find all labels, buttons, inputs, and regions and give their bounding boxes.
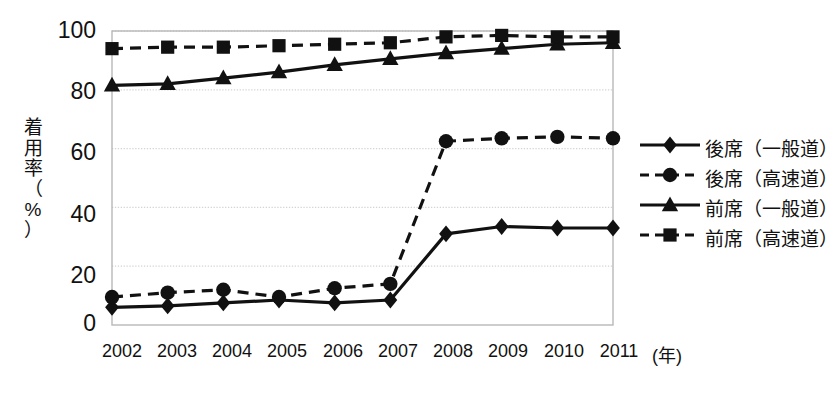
legend-label-3: 前席（高速道） [705, 224, 838, 251]
chart-container: 着用率（%） 100 80 60 40 20 0 2002 2003 2004 … [0, 0, 840, 393]
legend-label-1: 後席（高速道） [705, 164, 838, 191]
legend-label-0: 後席（一般道） [705, 134, 838, 161]
legend-entry-1 [640, 168, 700, 182]
legend-entry-0 [640, 137, 700, 154]
legend-marker [663, 168, 677, 182]
legend-label-2: 前席（一般道） [705, 194, 838, 221]
legend-entry-3 [640, 228, 700, 241]
legend-marker [663, 137, 677, 154]
legend-marker [663, 228, 676, 241]
legend-entry-2 [640, 196, 700, 211]
